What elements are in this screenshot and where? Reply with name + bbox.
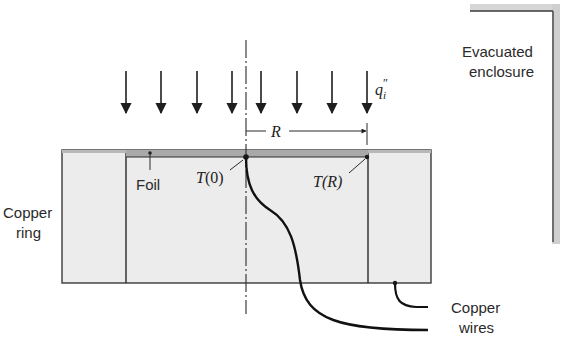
copper-ring-label: Copper ring <box>3 204 56 241</box>
foil-label: Foil <box>136 176 160 193</box>
heat-flux-label: qi″ <box>375 76 388 101</box>
ring-copper-wire <box>395 283 428 307</box>
foil-heat-flux-gage-diagram: Evacuated enclosure qi″ R Foil <box>0 0 565 344</box>
edge-thermocouple-junction <box>365 155 369 159</box>
evacuated-enclosure-wall <box>470 4 560 244</box>
tr-label: T(R) <box>313 173 342 191</box>
radius-label: R <box>270 123 281 140</box>
enclosure-label: Evacuated enclosure <box>462 43 537 80</box>
t0-label: T(0) <box>196 169 224 187</box>
radius-dimension <box>246 123 367 145</box>
copper-wires-label: Copper wires <box>451 299 504 336</box>
